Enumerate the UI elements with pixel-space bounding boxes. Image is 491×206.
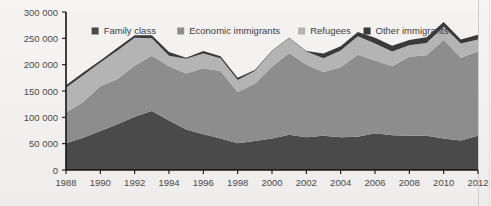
- chart-figure: 050 000100 000150 000200 000250 000300 0…: [0, 0, 491, 206]
- y-axis-labels: 050 000100 000150 000200 000250 000300 0…: [24, 7, 58, 176]
- legend-swatch: [92, 28, 99, 35]
- x-axis-tick-label: 2004: [330, 177, 351, 188]
- y-axis-tick-label: 0: [53, 165, 58, 176]
- x-axis-tick-label: 1988: [55, 177, 76, 188]
- legend-label: Other immigrants: [376, 25, 449, 36]
- x-axis-tick-label: 2008: [399, 177, 420, 188]
- legend-swatch: [298, 28, 305, 35]
- legend-label: Economic immigrants: [189, 25, 280, 36]
- y-axis-tick-label: 250 000: [24, 33, 58, 44]
- legend-swatch: [177, 28, 184, 35]
- x-axis-tick-label: 2010: [433, 177, 454, 188]
- x-axis-tick-label: 1992: [124, 177, 145, 188]
- x-axis-labels: 1988199019921994199619982000200220042006…: [55, 177, 488, 188]
- plot-area: 050 000100 000150 000200 000250 000300 0…: [0, 0, 491, 206]
- y-axis-tick-label: 100 000: [24, 112, 58, 123]
- legend-label: Refugees: [310, 25, 351, 36]
- y-axis-tick-label: 50 000: [29, 138, 58, 149]
- legend-swatch: [364, 28, 371, 35]
- y-axis-tick-label: 300 000: [24, 7, 58, 18]
- stacked-area-chart: 050 000100 000150 000200 000250 000300 0…: [0, 0, 491, 206]
- x-axis-tick-label: 1998: [227, 177, 248, 188]
- y-axis-tick-label: 150 000: [24, 86, 58, 97]
- y-axis-tick-label: 200 000: [24, 59, 58, 70]
- x-axis-tick-label: 2000: [261, 177, 282, 188]
- x-axis-tick-label: 1990: [90, 177, 111, 188]
- x-axis-tick-label: 2012: [467, 177, 488, 188]
- x-axis-tick-label: 1994: [158, 177, 179, 188]
- legend-label: Family class: [104, 25, 157, 36]
- x-axis-tick-label: 2002: [296, 177, 317, 188]
- x-axis-tick-label: 2006: [364, 177, 385, 188]
- chart-legend: Family classEconomic immigrantsRefugeesO…: [92, 25, 449, 36]
- x-axis-tick-label: 1996: [193, 177, 214, 188]
